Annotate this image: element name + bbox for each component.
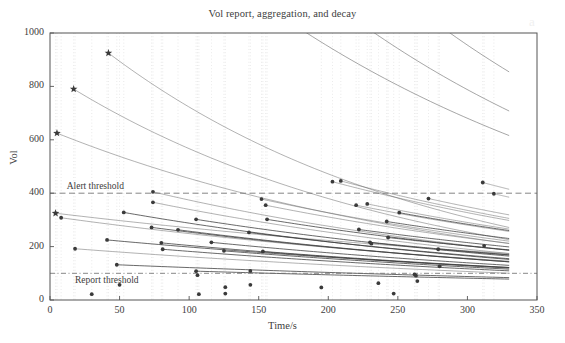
- chart-figure: Vol report, aggregation, and decay Vol T…: [0, 0, 565, 343]
- report-point-marker: [264, 203, 268, 207]
- y-tick-label: 0: [10, 293, 44, 304]
- report-point-marker: [415, 279, 419, 283]
- background-decay-curve: [50, 0, 509, 136]
- report-point-marker: [59, 216, 63, 220]
- decay-curve: [163, 249, 509, 271]
- report-point-marker: [161, 247, 165, 251]
- x-tick-label: 50: [100, 304, 140, 315]
- report-point-marker: [197, 292, 201, 296]
- report-point-marker: [392, 292, 396, 296]
- report-point-marker: [105, 238, 109, 242]
- report-point-marker: [122, 211, 126, 215]
- decay-curve: [483, 183, 509, 190]
- x-tick-label: 350: [517, 304, 557, 315]
- report-point-marker: [397, 211, 401, 215]
- report-point-marker: [482, 244, 486, 248]
- report-point-marker: [159, 241, 163, 245]
- x-tick-label: 300: [447, 304, 487, 315]
- report-point-marker: [370, 242, 374, 246]
- report-point-marker: [339, 179, 343, 183]
- y-tick-label: 600: [10, 133, 44, 144]
- report-point-marker: [90, 292, 94, 296]
- report-point-marker: [492, 192, 496, 196]
- decay-curve: [117, 265, 509, 278]
- report-point-marker: [385, 220, 389, 224]
- report-point-marker: [376, 281, 380, 285]
- background-curves-group: [50, 0, 509, 136]
- data-points-group: [52, 49, 496, 296]
- decay-curve: [196, 271, 509, 279]
- decay-curve: [387, 222, 509, 239]
- chart-canvas: [0, 0, 565, 343]
- y-tick-label: 400: [10, 186, 44, 197]
- report-point-marker: [196, 273, 200, 277]
- background-decay-curve: [50, 0, 509, 30]
- report-point-marker: [150, 225, 154, 229]
- report-point-marker: [194, 269, 198, 273]
- report-threshold-label: Report threshold: [75, 275, 139, 285]
- report-point-marker: [223, 285, 227, 289]
- x-tick-label: 250: [378, 304, 418, 315]
- report-point-marker: [319, 286, 323, 290]
- report-point-marker: [386, 236, 390, 240]
- report-point-marker: [354, 203, 358, 207]
- star-marker: [52, 209, 60, 216]
- decay-curve: [494, 194, 509, 197]
- y-tick-label: 1000: [10, 26, 44, 37]
- decay-curve: [153, 202, 509, 253]
- star-marker: [53, 129, 61, 136]
- y-tick-label: 200: [10, 240, 44, 251]
- report-point-marker: [438, 264, 442, 268]
- x-axis-label: Time/s: [0, 320, 565, 331]
- report-point-marker: [260, 197, 264, 201]
- decay-curve: [388, 238, 509, 250]
- x-tick-label: 0: [30, 304, 70, 315]
- report-point-marker: [151, 200, 155, 204]
- axis-group: [50, 33, 537, 300]
- report-point-marker: [357, 228, 361, 232]
- report-point-marker: [414, 274, 418, 278]
- watermark-glyph: a: [529, 14, 535, 30]
- report-point-marker: [247, 231, 251, 235]
- report-point-marker: [481, 181, 485, 185]
- x-tick-label: 150: [239, 304, 279, 315]
- decay-curve: [428, 199, 509, 215]
- report-point-marker: [436, 247, 440, 251]
- y-tick-label: 800: [10, 79, 44, 90]
- report-point-marker: [248, 283, 252, 287]
- report-point-marker: [331, 180, 335, 184]
- alert-threshold-label: Alert threshold: [67, 181, 124, 191]
- report-point-marker: [365, 202, 369, 206]
- report-point-marker: [73, 247, 77, 251]
- report-point-marker: [427, 197, 431, 201]
- report-point-marker: [176, 228, 180, 232]
- report-point-marker: [222, 249, 226, 253]
- report-point-marker: [248, 269, 252, 273]
- plot-frame: [50, 33, 537, 300]
- report-point-marker: [194, 217, 198, 221]
- x-tick-label: 200: [308, 304, 348, 315]
- background-decay-curve: [50, 0, 509, 111]
- report-point-marker: [261, 250, 265, 254]
- report-point-marker: [265, 217, 269, 221]
- report-point-marker: [115, 263, 119, 267]
- report-point-marker: [151, 190, 155, 194]
- decay-curve: [74, 89, 510, 240]
- x-tick-label: 100: [169, 304, 209, 315]
- report-point-marker: [210, 240, 214, 244]
- report-point-marker: [223, 292, 227, 296]
